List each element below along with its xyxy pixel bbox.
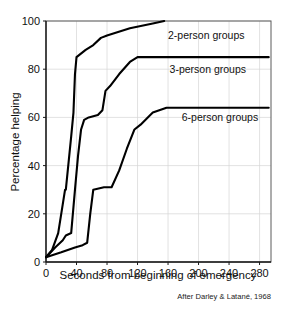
y-tick-label: 100 [22,15,40,27]
line-chart: 04080120160200240280 020406080100 2-pers… [0,0,287,313]
y-tick-label: 20 [28,208,40,220]
series-label-6-person-groups: 6-person groups [182,111,258,123]
source-credit: After Darley & Latané, 1968 [177,292,271,301]
x-axis-title: Seconds from beginning of emergency [60,269,257,281]
y-axis-tick-labels: 020406080100 [22,15,40,268]
y-tick-label: 0 [34,256,40,268]
y-axis-title: Percentage helping [9,92,21,191]
y-tick-label: 40 [28,160,40,172]
x-tick-label: 0 [43,267,49,279]
y-tick-label: 60 [28,111,40,123]
series-label-2-person-groups: 2-person groups [168,29,244,41]
figure-container: 04080120160200240280 020406080100 2-pers… [0,0,287,313]
y-tick-label: 80 [28,63,40,75]
series-label-3-person-groups: 3-person groups [170,63,246,75]
